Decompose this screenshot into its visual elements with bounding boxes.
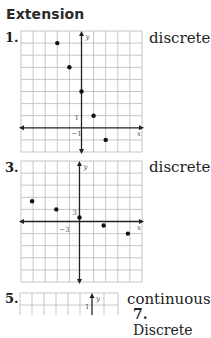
svg-text:−3: −3 (59, 225, 69, 234)
svg-text:x: x (137, 223, 141, 232)
exercise-number: 5. (5, 291, 19, 306)
section-heading: Extension (6, 6, 84, 22)
svg-text:y: y (95, 295, 101, 303)
answer-exercise-7: 7. Discrete (133, 306, 199, 338)
exercise-number: 3. (5, 160, 19, 175)
svg-text:y: y (83, 162, 89, 171)
svg-text:3: 3 (72, 208, 76, 217)
graph-exercise-1: y x −1 1 (21, 31, 142, 152)
answer-exercise-1: discrete (149, 29, 210, 47)
graph-exercise-3: y x −3 3 (21, 161, 142, 282)
svg-text:1: 1 (85, 303, 89, 311)
exercise-number: 1. (5, 30, 19, 45)
svg-text:1: 1 (74, 113, 78, 122)
svg-text:y: y (85, 32, 91, 41)
svg-text:x: x (137, 129, 141, 138)
answer-exercise-3: discrete (149, 158, 210, 176)
graph-exercise-5: y 1 (20, 293, 120, 315)
svg-text:−1: −1 (71, 129, 81, 138)
